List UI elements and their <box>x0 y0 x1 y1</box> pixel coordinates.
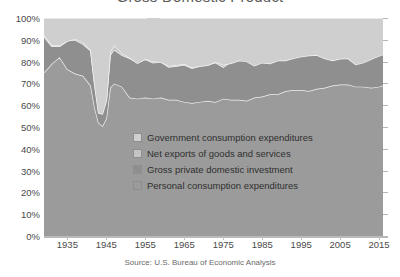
chart-root: Gross Domestic Product 0%10%20%30%40%50%… <box>0 0 400 277</box>
legend-item-label: Net exports of goods and services <box>147 149 291 159</box>
y-axis-tick-label: 40% <box>0 143 40 154</box>
x-axis-tick-mark <box>145 236 146 240</box>
x-axis-tick-label: 1935 <box>57 239 78 250</box>
chart-legend: Government consumption expendituresNet e… <box>133 133 313 191</box>
x-axis-tick-label: 1945 <box>96 239 117 250</box>
y-axis-tick-label: 10% <box>0 209 40 220</box>
legend-item[interactable]: Net exports of goods and services <box>133 149 313 159</box>
axis-tick-mark <box>383 171 388 172</box>
x-axis-tick-label: 1985 <box>252 239 273 250</box>
axis-tick-mark <box>383 40 388 41</box>
x-axis-tick-mark <box>67 236 68 240</box>
axis-tick-mark <box>383 83 388 84</box>
x-axis-tick-mark <box>223 236 224 240</box>
x-axis-tick-mark <box>262 236 263 240</box>
axis-tick-mark <box>383 192 388 193</box>
legend-swatch-icon <box>133 133 142 142</box>
chart-title: Gross Domestic Product <box>0 0 400 2</box>
stacked-area-plot <box>44 18 383 236</box>
x-axis-tick-label: 2015 <box>369 239 390 250</box>
x-axis-tick-mark <box>379 236 380 240</box>
legend-item-label: Personal consumption expenditures <box>147 181 298 191</box>
y-axis-tick-label: 60% <box>0 100 40 111</box>
x-axis-line <box>44 236 388 238</box>
x-axis-tick-label: 1965 <box>174 239 195 250</box>
legend-item-label: Gross private domestic investment <box>147 165 293 175</box>
x-axis-tick-mark <box>184 236 185 240</box>
legend-swatch-icon <box>133 149 142 158</box>
y-axis-tick-label: 30% <box>0 165 40 176</box>
plot-area <box>44 18 383 236</box>
axis-tick-mark <box>383 127 388 128</box>
x-axis-tick-mark <box>301 236 302 240</box>
legend-item-label: Government consumption expenditures <box>147 133 313 143</box>
y-axis-tick-label: 50% <box>0 122 40 133</box>
axis-tick-mark <box>383 62 388 63</box>
legend-item[interactable]: Government consumption expenditures <box>133 133 313 143</box>
y-axis-tick-label: 90% <box>0 34 40 45</box>
legend-item[interactable]: Personal consumption expenditures <box>133 181 313 191</box>
source-note: Source: U.S. Bureau of Economic Analysis <box>0 258 400 267</box>
x-axis-tick-label: 1955 <box>135 239 156 250</box>
legend-item[interactable]: Gross private domestic investment <box>133 165 313 175</box>
y-axis-tick-label: 80% <box>0 56 40 67</box>
x-axis-tick-label: 2005 <box>330 239 351 250</box>
legend-swatch-icon <box>133 181 142 190</box>
axis-tick-mark <box>383 18 388 19</box>
axis-tick-mark <box>383 214 388 215</box>
x-axis: 193519451955196519751985199520052015 <box>0 239 400 255</box>
x-axis-tick-mark <box>106 236 107 240</box>
legend-swatch-icon <box>133 165 142 174</box>
axis-tick-mark <box>383 105 388 106</box>
x-axis-tick-mark <box>340 236 341 240</box>
y-axis: 0%10%20%30%40%50%60%70%80%90%100% <box>0 18 40 236</box>
y-axis-tick-label: 100% <box>0 13 40 24</box>
y-axis-tick-label: 20% <box>0 187 40 198</box>
x-axis-tick-label: 1975 <box>213 239 234 250</box>
y-axis-tick-label: 70% <box>0 78 40 89</box>
x-axis-tick-label: 1995 <box>291 239 312 250</box>
axis-tick-mark <box>383 149 388 150</box>
